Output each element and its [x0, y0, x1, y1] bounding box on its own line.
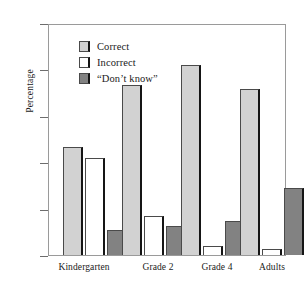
bar-kindergarten-incorrect	[85, 158, 105, 255]
bar-adults-dont-know	[284, 188, 304, 255]
legend-item-incorrect: Incorrect	[79, 55, 158, 70]
legend-label-dont-know: “Don’t know”	[97, 73, 158, 84]
legend-item-dont-know: “Don’t know”	[79, 71, 158, 86]
y-axis-title: Percentage	[25, 31, 35, 151]
y-tick-mark-40	[40, 163, 48, 164]
bar-adults-correct	[240, 89, 260, 255]
legend-swatch-correct-icon	[79, 41, 90, 52]
bar-grade4-correct	[181, 65, 201, 255]
legend-item-correct: Correct	[79, 39, 158, 54]
y-tick-mark-60	[40, 117, 48, 118]
bar-grade2-incorrect	[144, 216, 164, 255]
y-tick-mark-0	[40, 256, 48, 257]
y-tick-mark-20	[40, 210, 48, 211]
x-tick-label-kindergarten: Kindergarten	[42, 262, 126, 272]
bar-grade2-correct	[122, 85, 142, 255]
bar-kindergarten-correct	[63, 147, 83, 255]
legend-label-incorrect: Incorrect	[97, 57, 136, 68]
plot-area: Correct Incorrect “Don’t know”	[48, 24, 286, 256]
y-tick-mark-100	[40, 24, 48, 25]
x-tick-label-adults: Adults	[239, 262, 304, 272]
legend-swatch-dont-know-icon	[79, 73, 90, 84]
bar-chart-figure: Percentage 100 80 60 40 20 0 Correct	[0, 0, 304, 288]
legend-label-correct: Correct	[97, 41, 129, 52]
bar-grade4-incorrect	[203, 246, 223, 255]
legend: Correct Incorrect “Don’t know”	[79, 39, 158, 87]
y-tick-mark-80	[40, 70, 48, 71]
legend-swatch-incorrect-icon	[79, 57, 90, 68]
bar-adults-incorrect	[262, 249, 282, 255]
